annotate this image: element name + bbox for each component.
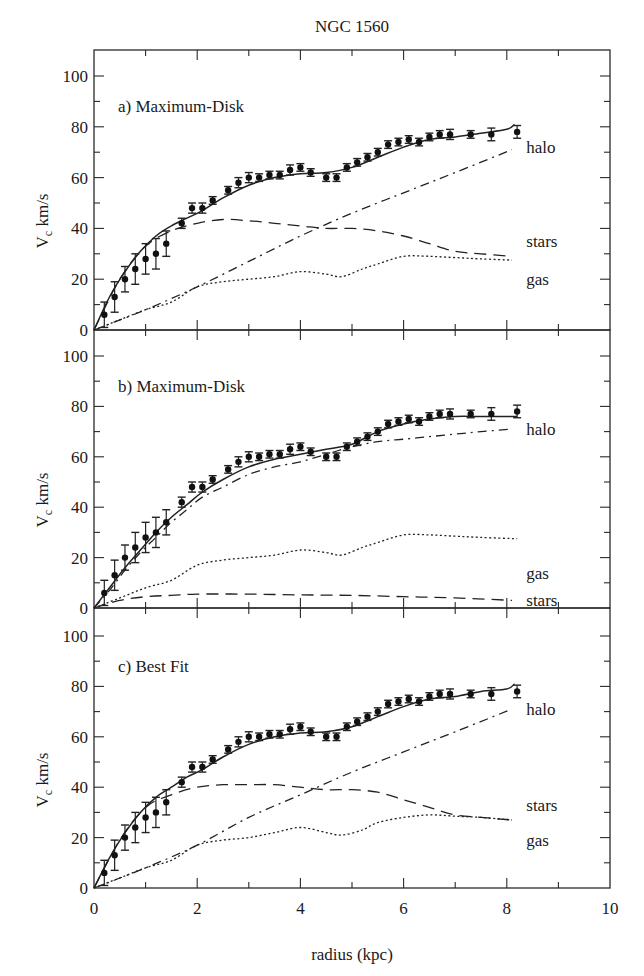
data-point — [488, 691, 494, 697]
data-point — [364, 713, 370, 719]
y-axis-label: Vc km/s — [33, 473, 55, 528]
data-point — [189, 205, 195, 211]
y-tick-label: 0 — [80, 321, 89, 340]
data-point — [514, 129, 520, 135]
x-tick-label: 0 — [90, 899, 99, 918]
y-tick-label: 80 — [71, 118, 88, 137]
curve-label-gas: gas — [526, 831, 549, 850]
y-axis-label: Vc km/s — [33, 753, 55, 808]
data-point — [142, 814, 148, 820]
data-point — [101, 312, 107, 318]
y-tick-label: 20 — [71, 270, 88, 289]
data-point — [297, 164, 303, 170]
x-tick-label: 6 — [399, 899, 408, 918]
data-point — [163, 519, 169, 525]
data-point — [375, 428, 381, 434]
y-tick-label: 100 — [63, 67, 89, 86]
data-point — [354, 718, 360, 724]
data-point — [426, 693, 432, 699]
y-tick-label: 100 — [63, 347, 89, 366]
data-point — [179, 220, 185, 226]
y-tick-label: 20 — [71, 549, 88, 568]
data-point — [308, 169, 314, 175]
data-point — [132, 266, 138, 272]
data-point — [406, 416, 412, 422]
data-point — [308, 449, 314, 455]
data-point — [385, 421, 391, 427]
data-point — [287, 726, 293, 732]
data-point — [385, 701, 391, 707]
data-point — [189, 484, 195, 490]
data-point — [199, 205, 205, 211]
data-point — [488, 411, 494, 417]
data-point — [447, 411, 453, 417]
data-point — [333, 174, 339, 180]
data-point — [344, 724, 350, 730]
data-point — [235, 179, 241, 185]
x-tick-label: 8 — [503, 899, 512, 918]
total-curve — [94, 416, 517, 608]
data-point — [354, 438, 360, 444]
data-point — [266, 451, 272, 457]
data-point — [308, 729, 314, 735]
data-point — [375, 708, 381, 714]
data-point — [209, 197, 215, 203]
y-tick-label: 60 — [71, 169, 88, 188]
data-point — [354, 159, 360, 165]
stars-curve — [94, 594, 512, 608]
data-point — [426, 134, 432, 140]
y-tick-label: 80 — [71, 677, 88, 696]
data-point — [323, 454, 329, 460]
data-point — [277, 451, 283, 457]
y-tick-label: 20 — [71, 829, 88, 848]
data-point — [416, 139, 422, 145]
data-point — [179, 499, 185, 505]
data-point — [256, 454, 262, 460]
data-point — [225, 746, 231, 752]
y-tick-label: 100 — [63, 627, 89, 646]
data-point — [153, 809, 159, 815]
data-point — [297, 724, 303, 730]
data-point — [437, 131, 443, 137]
data-point — [225, 187, 231, 193]
data-point — [179, 779, 185, 785]
data-point — [406, 136, 412, 142]
data-point — [256, 734, 262, 740]
data-point — [333, 454, 339, 460]
x-tick-label: 2 — [193, 899, 202, 918]
curve-label-stars: stars — [526, 796, 557, 815]
curve-label-halo: halo — [526, 138, 555, 157]
y-tick-label: 40 — [71, 778, 88, 797]
total-curve — [94, 124, 515, 330]
data-point — [266, 731, 272, 737]
data-point — [235, 459, 241, 465]
data-point — [246, 454, 252, 460]
curve-label-halo: halo — [526, 420, 555, 439]
total-curve — [94, 684, 515, 888]
data-point — [163, 240, 169, 246]
data-point — [323, 174, 329, 180]
y-tick-label: 0 — [80, 879, 89, 898]
data-point — [287, 446, 293, 452]
data-point — [333, 734, 339, 740]
data-point — [256, 174, 262, 180]
data-point — [225, 466, 231, 472]
data-point — [395, 139, 401, 145]
data-point — [467, 411, 473, 417]
data-point — [488, 131, 494, 137]
data-point — [153, 529, 159, 535]
data-point — [246, 174, 252, 180]
data-point — [416, 698, 422, 704]
panel-b: 020406080100Vc km/sb) Maximum-Diskhaloga… — [33, 330, 610, 618]
data-point — [199, 484, 205, 490]
panel-title: c) Best Fit — [118, 657, 189, 676]
data-point — [416, 418, 422, 424]
data-point — [111, 852, 117, 858]
gas-curve — [94, 815, 512, 888]
curve-label-halo: halo — [526, 700, 555, 719]
data-point — [385, 141, 391, 147]
x-tick-label: 10 — [602, 899, 619, 918]
data-point — [277, 172, 283, 178]
data-point — [277, 731, 283, 737]
data-point — [132, 824, 138, 830]
